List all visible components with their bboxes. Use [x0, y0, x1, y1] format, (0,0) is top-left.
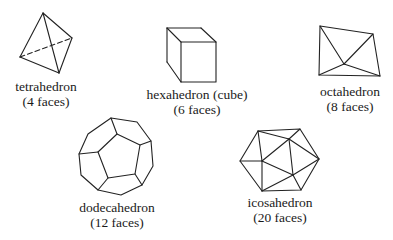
octahedron-drawing [319, 26, 380, 76]
tetrahedron-name: tetrahedron [15, 79, 76, 94]
platonic-solids-figure: tetrahedron (4 faces) hexahedron (cube) … [0, 0, 393, 240]
dodecahedron-name: dodecahedron [79, 200, 155, 215]
hexahedron-name: hexahedron (cube) [147, 87, 248, 102]
dodecahedron-faces: (12 faces) [79, 215, 155, 230]
tetrahedron-caption: tetrahedron (4 faces) [15, 79, 76, 109]
octahedron-faces: (8 faces) [320, 99, 380, 114]
icosahedron-faces: (20 faces) [247, 210, 312, 225]
tetrahedron-faces: (4 faces) [15, 94, 76, 109]
icosahedron-name: icosahedron [247, 195, 312, 210]
dodecahedron-drawing [79, 118, 153, 195]
dodecahedron-caption: dodecahedron (12 faces) [79, 200, 155, 230]
octahedron-name: octahedron [320, 84, 380, 99]
icosahedron-caption: icosahedron (20 faces) [247, 195, 312, 225]
octahedron-caption: octahedron (8 faces) [320, 84, 380, 114]
tetrahedron-drawing [20, 13, 72, 73]
hexahedron-drawing [167, 28, 216, 82]
hexahedron-faces: (6 faces) [147, 102, 248, 117]
icosahedron-drawing [240, 129, 319, 191]
hexahedron-caption: hexahedron (cube) (6 faces) [147, 87, 248, 117]
